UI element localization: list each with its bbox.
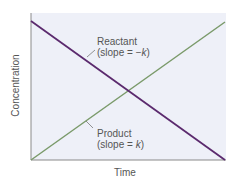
product-slope-prefix: (slope =	[97, 139, 136, 150]
reactant-slope: (slope = −k)	[97, 47, 150, 58]
product-label: Product	[97, 128, 144, 139]
product-annotation: Product (slope = k)	[97, 128, 144, 150]
reactant-slope-suffix: )	[146, 47, 149, 58]
product-leader-line	[86, 121, 93, 128]
y-axis-label: Concentration	[10, 41, 21, 131]
product-slope: (slope = k)	[97, 139, 144, 150]
reactant-label: Reactant	[97, 36, 150, 47]
reactant-annotation: Reactant (slope = −k)	[97, 36, 150, 58]
x-axis-label: Time	[100, 167, 150, 178]
reactant-leader-line	[87, 50, 95, 57]
product-slope-suffix: )	[141, 139, 144, 150]
chart-svg	[0, 0, 237, 183]
reactant-slope-prefix: (slope = −	[97, 47, 141, 58]
